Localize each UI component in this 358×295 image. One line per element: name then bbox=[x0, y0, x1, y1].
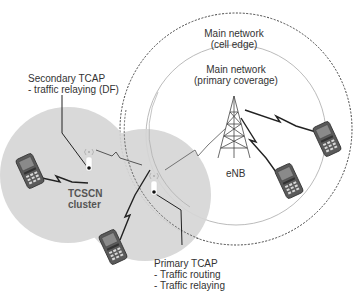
secondary-tcap-callout: Secondary TCAP - traffic relaying (DF) bbox=[28, 73, 119, 95]
tcscn-label-line1: TCSCN bbox=[68, 188, 102, 199]
tcscn-label-line2: cluster bbox=[68, 199, 102, 210]
tcscn-cluster-label: TCSCN cluster bbox=[68, 188, 102, 210]
primary-coverage-label: Main network (primary coverage) bbox=[194, 64, 278, 86]
diagram-canvas: Main network (cell edge) Main network (p… bbox=[0, 0, 358, 295]
cell-edge-label-line2: (cell edge) bbox=[204, 39, 263, 50]
primary-coverage-label-line2: (primary coverage) bbox=[194, 75, 278, 86]
primary-tcap-role-relaying: - Traffic relaying bbox=[154, 280, 225, 291]
primary-tcap-role-routing: - Traffic routing bbox=[154, 269, 225, 280]
primary-tcap-callout: Primary TCAP - Traffic routing - Traffic… bbox=[154, 258, 225, 291]
enb-label: eNB bbox=[226, 168, 245, 179]
cell-edge-label-line1: Main network bbox=[204, 28, 263, 39]
cell-edge-label: Main network (cell edge) bbox=[204, 28, 263, 50]
primary-coverage-label-line1: Main network bbox=[194, 64, 278, 75]
diagram-graphics bbox=[0, 0, 358, 295]
secondary-tcap-title: Secondary TCAP bbox=[28, 73, 119, 84]
primary-tcap-title: Primary TCAP bbox=[154, 258, 225, 269]
secondary-tcap-role: - traffic relaying (DF) bbox=[28, 84, 119, 95]
